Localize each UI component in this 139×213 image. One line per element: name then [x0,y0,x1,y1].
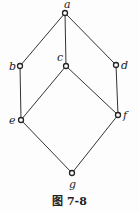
diagram-graphic: abcdefg [0,0,139,213]
edge-c-e [21,66,66,120]
edge-a-d [65,13,116,65]
figure-caption: 图 7-8 [0,192,139,208]
node-d [114,63,119,68]
node-a [63,11,68,16]
node-f [116,113,121,118]
edge-b-e [20,66,21,120]
node-label-f: f [122,109,129,122]
node-label-e: e [9,114,16,127]
node-label-g: g [69,178,76,191]
edge-c-f [66,66,118,115]
edge-e-g [21,120,72,173]
node-b [18,64,23,69]
edge-f-g [72,115,118,173]
node-label-a: a [64,0,71,11]
node-label-d: d [121,59,128,72]
node-label-c: c [57,51,63,64]
edge-a-c [65,13,66,66]
edge-d-f [116,65,118,115]
node-label-b: b [9,60,16,73]
node-e [19,118,24,123]
hasse-diagram: abcdefg 图 7-8 [0,0,139,213]
node-c [64,64,69,69]
node-g [70,171,75,176]
